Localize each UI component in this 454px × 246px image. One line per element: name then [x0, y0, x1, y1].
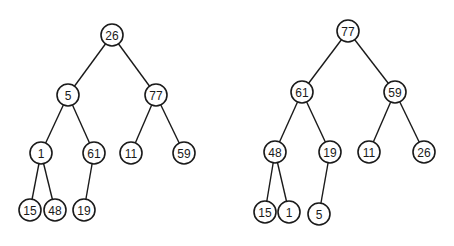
heapified-tree-node: 26 — [413, 141, 435, 163]
heapified-tree-node: 61 — [291, 81, 313, 103]
binary-tree-diagram: 265771611159154819776159481911261515 — [0, 0, 454, 246]
node-label: 15 — [258, 206, 272, 220]
node-label: 5 — [316, 208, 323, 222]
node-label: 19 — [77, 204, 91, 218]
node-label: 59 — [388, 86, 402, 100]
heapified-tree-node: 19 — [319, 141, 341, 163]
original-tree-node: 48 — [44, 199, 66, 221]
heapified-tree-node: 11 — [358, 141, 380, 163]
original-tree-node: 77 — [145, 84, 167, 106]
heapified-tree-node: 1 — [278, 201, 300, 223]
heapified-tree-node: 59 — [384, 81, 406, 103]
node-label: 77 — [149, 89, 163, 103]
node-label: 15 — [23, 204, 37, 218]
original-tree-node: 19 — [73, 199, 95, 221]
tree-nodes: 265771611159154819776159481911261515 — [19, 20, 435, 225]
heapified-tree-node: 5 — [308, 203, 330, 225]
original-tree-node: 59 — [173, 142, 195, 164]
node-label: 5 — [65, 89, 72, 103]
original-tree-node: 5 — [57, 84, 79, 106]
node-label: 11 — [125, 147, 138, 161]
tree-edges — [30, 31, 424, 214]
node-label: 26 — [105, 29, 119, 43]
original-tree-node: 61 — [83, 142, 105, 164]
heapified-tree-node: 48 — [264, 141, 286, 163]
node-label: 48 — [268, 146, 282, 160]
node-label: 11 — [363, 146, 376, 160]
heapified-tree-node: 77 — [337, 20, 359, 42]
node-label: 1 — [38, 147, 45, 161]
node-label: 48 — [48, 204, 62, 218]
original-tree-node: 26 — [101, 24, 123, 46]
original-tree-node: 1 — [30, 142, 52, 164]
node-label: 59 — [177, 147, 191, 161]
original-tree-node: 15 — [19, 199, 41, 221]
node-label: 26 — [417, 146, 431, 160]
node-label: 61 — [87, 147, 101, 161]
node-label: 1 — [286, 206, 293, 220]
heapified-tree-node: 15 — [254, 201, 276, 223]
node-label: 61 — [295, 86, 309, 100]
node-label: 19 — [323, 146, 337, 160]
original-tree-node: 11 — [120, 142, 142, 164]
node-label: 77 — [341, 25, 355, 39]
